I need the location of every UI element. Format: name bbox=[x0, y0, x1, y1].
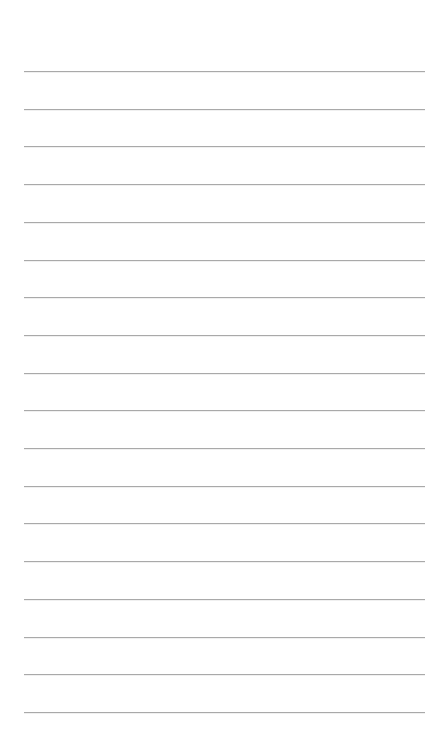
ruled-line bbox=[24, 486, 425, 487]
ruled-line bbox=[24, 674, 425, 675]
ruled-line bbox=[24, 260, 425, 261]
ruled-line bbox=[24, 335, 425, 336]
ruled-line bbox=[24, 410, 425, 411]
ruled-line bbox=[24, 523, 425, 524]
ruled-line bbox=[24, 448, 425, 449]
ruled-line bbox=[24, 637, 425, 638]
ruled-line bbox=[24, 712, 425, 713]
lined-paper-sheet bbox=[0, 0, 444, 755]
ruled-line bbox=[24, 71, 425, 72]
ruled-line bbox=[24, 184, 425, 185]
ruled-line bbox=[24, 599, 425, 600]
ruled-line bbox=[24, 561, 425, 562]
ruled-line bbox=[24, 109, 425, 110]
ruled-line bbox=[24, 373, 425, 374]
ruled-line bbox=[24, 222, 425, 223]
ruled-line bbox=[24, 146, 425, 147]
ruled-line bbox=[24, 297, 425, 298]
